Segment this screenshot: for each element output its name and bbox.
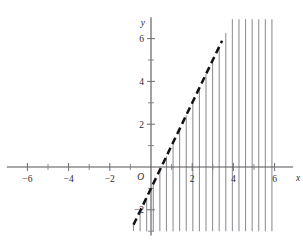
y-tick-label: 6 [139,34,144,44]
x-axis-label: x [295,173,301,183]
x-tick-label: −6 [22,174,32,184]
y-axis-label: y [140,18,146,28]
y-tick-label: −2 [134,205,144,215]
x-tick-label: 4 [231,174,236,184]
x-tick-label: 2 [190,174,195,184]
inequality-graph: −6−4−2246−2246Oxy [0,0,303,243]
origin-label: O [137,172,144,182]
graph-figure: −6−4−2246−2246Oxy [0,0,303,243]
y-tick-label: 4 [139,77,144,87]
y-tick-label: 2 [139,120,144,130]
x-tick-label: 6 [272,174,277,184]
x-tick-label: −4 [64,174,74,184]
x-tick-label: −2 [105,174,115,184]
